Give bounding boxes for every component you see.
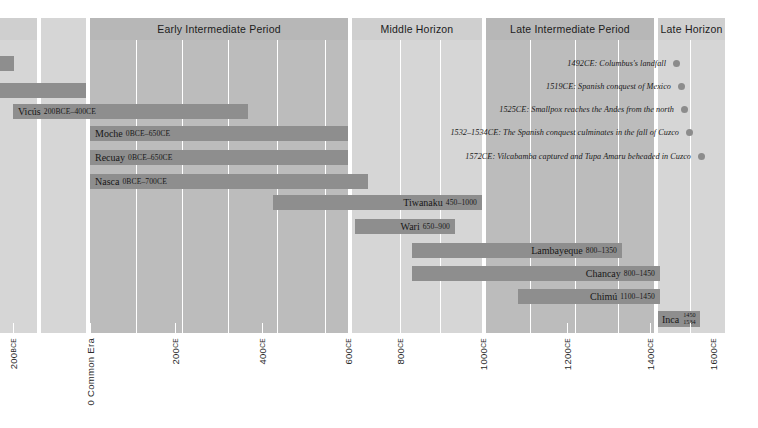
culture-bar-tiwanaku: Tiwanaku 450–1000 (273, 195, 482, 210)
culture-bar-chancay: Chancay 800–1450 (412, 266, 660, 281)
culture-bar-moche: Moche 0BCE–650CE (90, 126, 348, 141)
axis-era: CE (172, 338, 179, 348)
event-dot-icon (698, 153, 705, 160)
event-label: 1492CE: Columbus's landfall (567, 59, 666, 68)
axis-value: 1000 (478, 348, 489, 370)
axis-value: 1200 (562, 348, 573, 370)
axis-era: CE (647, 338, 654, 348)
axis-value: 1600 (708, 348, 719, 370)
axis-value: 0 Common Era (85, 338, 96, 405)
culture-name: Wari (401, 221, 420, 232)
axis-tick (175, 323, 176, 333)
axis-value: 200 (170, 348, 181, 365)
axis-value: 600 (343, 348, 354, 365)
culture-bar-vicus: Vicús 200BCE–400CE (13, 104, 248, 119)
axis-label-400ce: 400CE (257, 338, 268, 365)
axis-tick (262, 323, 263, 333)
culture-name: Chimú (590, 291, 617, 302)
axis-value: 800 (395, 348, 406, 365)
axis-label-200bce: 200BCE (8, 338, 19, 369)
period-header-late-intermediate: Late Intermediate Period (486, 18, 654, 40)
column-separator (690, 18, 691, 333)
axis-era: CE (397, 338, 404, 348)
culture-name: Vicús (18, 106, 41, 117)
axis-label-1000ce: 1000CE (478, 338, 489, 370)
period-header-late-horizon: Late Horizon (658, 18, 725, 40)
culture-bar-partial-b (0, 83, 86, 98)
axis-era: CE (259, 338, 266, 348)
axis-era: CE (564, 338, 571, 348)
event-label: 1572CE: Vilcabamba captured and Tupa Ama… (465, 152, 691, 161)
axis-label-200ce: 200CE (170, 338, 181, 365)
axis-label-600ce: 600CE (343, 338, 354, 365)
axis-era: CE (345, 338, 352, 348)
period-label: Middle Horizon (381, 23, 454, 35)
event-conquest-mexico: 1519CE: Spanish conquest of Mexico (420, 80, 685, 92)
period-label: Early Intermediate Period (157, 23, 280, 35)
event-fall-of-cuzco: 1532–1534CE: The Spanish conquest culmin… (420, 126, 693, 138)
culture-bar-lambayeque: Lambayeque 800–1350 (412, 243, 622, 258)
period-label: Late Intermediate Period (510, 23, 630, 35)
axis-label-1400ce: 1400CE (645, 338, 656, 370)
axis-value: 400 (257, 348, 268, 365)
culture-range: 1100–1450 (620, 292, 655, 301)
axis-tick (13, 323, 14, 333)
axis-tick (650, 323, 651, 333)
event-dot-icon (673, 60, 680, 67)
event-tupa-amaru: 1572CE: Vilcabamba captured and Tupa Ama… (420, 150, 705, 162)
axis-tick (348, 323, 349, 333)
event-dot-icon (686, 129, 693, 136)
culture-name: Inca (662, 314, 679, 325)
axis-label-1600ce: 1600CE (708, 338, 719, 370)
axis-era: CE (480, 338, 487, 348)
culture-range: 0BCE–650CE (126, 129, 170, 138)
axis-era: CE (710, 338, 717, 348)
culture-range: 200BCE–400CE (44, 107, 96, 116)
culture-range: 650–900 (423, 222, 450, 231)
event-dot-icon (678, 83, 685, 90)
period-header-middle-horizon: Middle Horizon (352, 18, 482, 40)
axis-label-800ce: 800CE (395, 338, 406, 365)
axis-value: 200 (8, 353, 19, 370)
axis-tick (483, 323, 484, 333)
axis-tick (400, 323, 401, 333)
culture-name: Moche (95, 128, 123, 139)
culture-bar-partial-a (0, 56, 14, 71)
culture-range: 800–1450 (624, 269, 655, 278)
axis-label-common-era: 0 Common Era (85, 338, 96, 405)
event-smallpox-andes: 1525CE: Smallpox reaches the Andes from … (420, 103, 688, 115)
culture-bar-wari: Wari 650–900 (355, 219, 455, 234)
timeline-chart: Early Intermediate Period Middle Horizon… (0, 0, 758, 428)
axis-label-1200ce: 1200CE (562, 338, 573, 370)
event-columbus-landfall: 1492CE: Columbus's landfall (420, 57, 680, 69)
culture-name: Nasca (95, 176, 119, 187)
axis-value: 1400 (645, 348, 656, 370)
culture-range: 800–1350 (586, 246, 617, 255)
culture-bar-nasca: Nasca 0BCE–700CE (90, 174, 368, 189)
period-header-partial-left (0, 18, 37, 40)
axis-tick (90, 323, 91, 333)
axis-era: BCE (10, 338, 17, 353)
event-label: 1525CE: Smallpox reaches the Andes from … (499, 105, 674, 114)
event-dot-icon (681, 106, 688, 113)
column-separator (400, 18, 401, 333)
culture-bar-chimu: Chimú 1100–1450 (518, 289, 660, 304)
culture-range: 450–1000 (446, 198, 477, 207)
event-label: 1532–1534CE: The Spanish conquest culmin… (450, 128, 679, 137)
period-label: Late Horizon (661, 23, 723, 35)
axis-tick (567, 323, 568, 333)
culture-name: Recuay (95, 152, 125, 163)
culture-range: 0BCE–650CE (128, 153, 172, 162)
culture-bar-inca: Inca 1450 1534 (658, 311, 700, 327)
period-header-early-intermediate: Early Intermediate Period (90, 18, 348, 40)
culture-name: Tiwanaku (403, 197, 443, 208)
culture-name: Lambayeque (531, 245, 583, 256)
culture-name: Chancay (586, 268, 621, 279)
axis-tick (690, 323, 691, 333)
band-early-horizon (41, 18, 86, 333)
culture-bar-recuay: Recuay 0BCE–650CE (90, 150, 348, 165)
event-label: 1519CE: Spanish conquest of Mexico (546, 82, 671, 91)
culture-range: 0BCE–700CE (122, 177, 166, 186)
